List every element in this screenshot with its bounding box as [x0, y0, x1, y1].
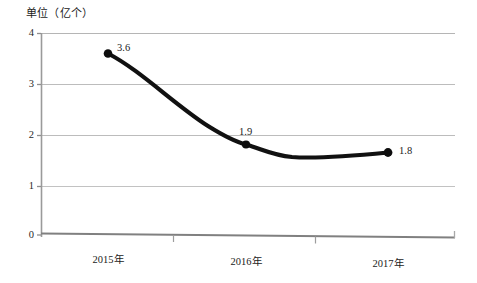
y-axis-tick-label-1: 1 [18, 181, 34, 192]
y-axis-tick-label-3: 3 [18, 79, 34, 90]
x-axis-line [41, 234, 455, 238]
data-value-label-2017: 1.8 [399, 145, 412, 156]
y-axis-tick-label-2: 2 [18, 130, 34, 141]
data-point-marker-2017 [384, 148, 393, 157]
x-axis-tick-label-2017: 2017年 [358, 258, 418, 270]
chart-plot-area [0, 0, 477, 283]
y-axis-tick-label-4: 4 [18, 28, 34, 39]
x-axis-tick-label-2016: 2016年 [216, 256, 276, 268]
y-axis-tick-label-0: 0 [18, 230, 34, 241]
data-value-label-2016: 1.9 [239, 126, 252, 137]
data-value-label-2015: 3.6 [117, 42, 130, 53]
data-point-marker-2015 [104, 49, 113, 58]
line-chart: 单位（亿个） 4 3 2 1 0 2015年 2016年 2017年 [0, 0, 477, 283]
x-axis-tick-label-2015: 2015年 [78, 254, 138, 266]
data-point-marker-2016 [242, 140, 250, 148]
